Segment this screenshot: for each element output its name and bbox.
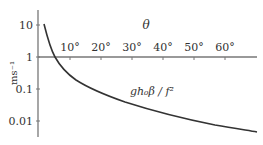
curve-label: gh₀β / f² <box>130 85 174 98</box>
x-axis-title: θ <box>142 18 150 32</box>
x-tick-label-60: 60° <box>215 41 235 54</box>
x-tick-label-30: 30° <box>122 41 142 54</box>
chart: 10 1 0.1 0.01 10° 20° 30° 40° 50° 60° θ … <box>0 0 263 145</box>
x-tick-label-10: 10° <box>60 41 80 54</box>
x-tick-label-40: 40° <box>153 41 173 54</box>
y-axis-unit: ms⁻¹ <box>8 61 19 85</box>
y-tick-label-1: 1 <box>26 51 33 64</box>
y-tick-label-10: 10 <box>19 19 33 32</box>
y-tick-label-0.01: 0.01 <box>9 115 34 128</box>
x-tick-label-50: 50° <box>184 41 204 54</box>
x-tick-label-20: 20° <box>91 41 111 54</box>
